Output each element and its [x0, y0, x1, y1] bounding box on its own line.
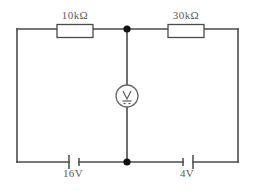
circuit-schematic: [0, 0, 254, 191]
voltmeter-circle: [116, 85, 138, 107]
resistor-r2-label: 30kΩ: [161, 9, 211, 21]
junction-node-top: [123, 25, 130, 32]
battery-v2-label: 4V: [162, 167, 212, 179]
resistor-r2-body: [168, 25, 204, 38]
resistor-r1-body: [57, 25, 93, 38]
junction-node-bottom: [123, 158, 130, 165]
battery-v1-label: 16V: [48, 167, 98, 179]
resistor-r1-label: 10kΩ: [50, 9, 100, 21]
circuit-diagram-canvas: 10kΩ 30kΩ 16V 4V: [0, 0, 254, 191]
